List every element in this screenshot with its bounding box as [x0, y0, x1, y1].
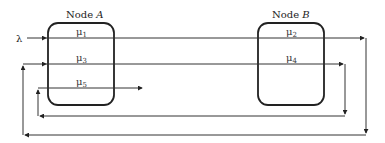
node-a-label: Node A — [66, 9, 104, 20]
rate-mu3-label: μ3 — [76, 52, 87, 65]
rate-mu5-label: μ5 — [76, 76, 87, 89]
rate-mu1-label: μ1 — [76, 26, 87, 39]
arrival-rate-label: λ — [16, 33, 23, 44]
rate-mu4-label: μ4 — [286, 52, 298, 65]
rate-mu2-label: μ2 — [286, 26, 297, 39]
queueing-network-diagram: Node A Node B λ μ1 μ3 μ5 μ2 μ4 — [0, 0, 385, 143]
node-b-label: Node B — [272, 9, 310, 20]
